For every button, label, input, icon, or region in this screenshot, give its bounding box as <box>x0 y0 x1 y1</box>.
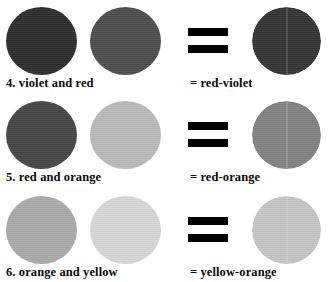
equals-bar-top <box>188 28 228 36</box>
equals-bar-bottom <box>188 139 228 147</box>
equals-bar-top <box>188 122 228 130</box>
source-color-swatch-a <box>6 101 77 169</box>
mix-row: 6. orange and yellow = yellow-orange <box>0 189 329 282</box>
row-caption-right: = red-violet <box>190 76 253 91</box>
equals-sign-icon <box>188 217 228 243</box>
color-mixing-chart: 4. violet and red = red-violet 5. red an… <box>0 0 329 282</box>
mix-row: 5. red and orange = red-orange <box>0 94 329 188</box>
equals-bar-bottom <box>188 45 228 53</box>
equals-sign-icon <box>188 122 228 148</box>
row-caption-left: 5. red and orange <box>6 170 101 185</box>
row-caption-right: = red-orange <box>190 170 260 185</box>
result-color-swatch <box>252 101 321 169</box>
source-color-swatch-a <box>6 196 77 264</box>
halftone-grain <box>90 196 161 264</box>
result-color-swatch <box>252 7 321 75</box>
source-color-swatch-a <box>6 7 77 75</box>
row-caption-right: = yellow-orange <box>190 265 277 280</box>
equals-bar-top <box>188 217 228 225</box>
blend-seam <box>286 101 287 169</box>
source-color-swatch-b <box>90 196 161 264</box>
equals-bar-bottom <box>188 234 228 242</box>
halftone-grain <box>90 101 161 169</box>
halftone-grain <box>90 7 161 75</box>
halftone-grain <box>6 7 77 75</box>
source-color-swatch-b <box>90 101 161 169</box>
row-caption-left: 6. orange and yellow <box>6 265 118 280</box>
blend-seam <box>286 7 287 75</box>
equals-sign-icon <box>188 28 228 54</box>
halftone-grain <box>6 101 77 169</box>
blend-seam <box>286 196 287 264</box>
result-color-swatch <box>252 196 321 264</box>
row-caption-left: 4. violet and red <box>6 76 94 91</box>
mix-row: 4. violet and red = red-violet <box>0 0 329 94</box>
source-color-swatch-b <box>90 7 161 75</box>
halftone-grain <box>6 196 77 264</box>
